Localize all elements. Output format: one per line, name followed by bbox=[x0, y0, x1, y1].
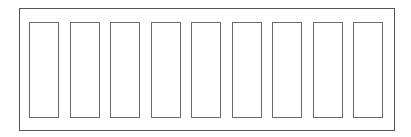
slot-rectangle bbox=[110, 22, 140, 118]
slot-rectangle bbox=[232, 22, 262, 118]
slot-rectangle bbox=[151, 22, 181, 118]
slot-rectangle bbox=[272, 22, 302, 118]
slot-rectangle bbox=[191, 22, 221, 118]
slot-rectangle bbox=[29, 22, 59, 118]
slot-rectangle bbox=[313, 22, 343, 118]
slot-rectangle bbox=[353, 22, 383, 118]
slot-row bbox=[29, 22, 383, 118]
slot-rectangle bbox=[70, 22, 100, 118]
